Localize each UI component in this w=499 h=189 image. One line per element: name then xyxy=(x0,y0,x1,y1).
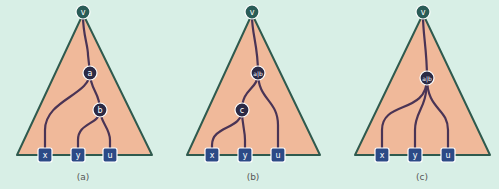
node-a-or-b-label: a|b xyxy=(422,75,432,83)
node-b-label: b xyxy=(97,106,102,115)
panel-b: v a|b c x y u (b) xyxy=(187,5,320,182)
caption-b: (b) xyxy=(247,172,260,182)
leaf-x-label: x xyxy=(210,151,215,160)
root-label: v xyxy=(250,8,255,17)
caption-c: (c) xyxy=(416,172,428,182)
node-a-label: a xyxy=(88,69,93,78)
leaf-y-label: y xyxy=(243,151,248,160)
tree-diagram: v a b x y u (a) v a|b c x y u (b) xyxy=(0,0,499,189)
panel-c: v a|b x y u (c) xyxy=(355,5,490,182)
leaf-x-label: x xyxy=(380,151,385,160)
leaf-u-label: u xyxy=(107,151,112,160)
root-label: v xyxy=(421,8,426,17)
leaf-y-label: y xyxy=(76,151,81,160)
leaf-u-label: u xyxy=(275,151,280,160)
subtree-triangle xyxy=(355,14,490,155)
node-a-or-b-label: a|b xyxy=(253,70,263,78)
leaf-x-label: x xyxy=(43,151,48,160)
leaf-u-label: u xyxy=(445,151,450,160)
leaf-y-label: y xyxy=(413,151,418,160)
caption-a: (a) xyxy=(77,172,90,182)
node-c-label: c xyxy=(240,106,244,115)
panel-a: v a b x y u (a) xyxy=(17,5,152,182)
root-label: v xyxy=(81,8,86,17)
